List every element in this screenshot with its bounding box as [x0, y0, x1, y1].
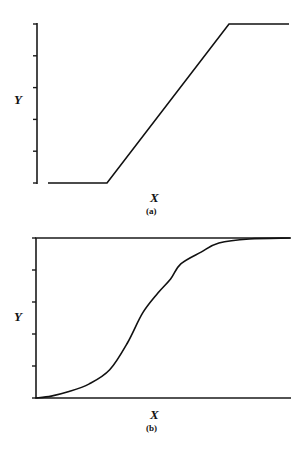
panel-a-series-line — [48, 24, 289, 183]
figure: Y X (a) Y X (b) — [0, 0, 306, 456]
panel-b-x-label: X — [149, 407, 159, 422]
panel-a-y-label: Y — [14, 92, 23, 107]
panel-b-chart: Y X (b) — [14, 238, 291, 433]
panel-b-series-curve — [36, 238, 290, 398]
panel-b-caption: (b) — [146, 423, 157, 433]
panel-b-y-label: Y — [14, 309, 23, 324]
panel-a-caption: (a) — [146, 206, 157, 216]
panel-a-chart: Y X (a) — [14, 23, 289, 216]
panel-a-x-label: X — [149, 190, 159, 205]
